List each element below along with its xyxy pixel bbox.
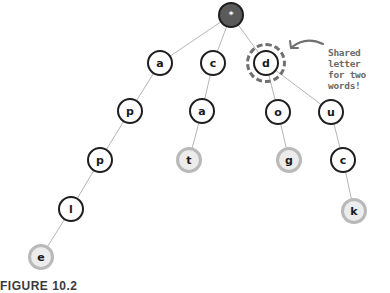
trie-node-c: c: [200, 50, 226, 76]
annotation-line-2: for two words!: [328, 69, 390, 91]
trie-node-t-terminal: t: [176, 147, 202, 173]
shared-letter-annotation: Shared letter for two words!: [328, 47, 390, 91]
tree-edges: [41, 15, 354, 257]
trie-node-a: a: [189, 98, 215, 124]
trie-node-k-terminal: k: [341, 198, 367, 224]
trie-node-e-terminal: e: [28, 244, 54, 270]
trie-node-u: u: [318, 99, 344, 125]
trie-node-g-terminal: g: [276, 147, 302, 173]
annotation-line-1: Shared letter: [328, 47, 390, 69]
trie-node-a: a: [147, 50, 173, 76]
trie-node-l: l: [58, 196, 84, 222]
figure-caption: FIGURE 10.2: [0, 279, 78, 293]
trie-node-o: o: [265, 99, 291, 125]
trie-root-node: *: [218, 2, 244, 28]
trie-node-p: p: [87, 147, 113, 173]
trie-node-d: d: [253, 50, 279, 76]
trie-node-c: c: [330, 147, 356, 173]
annotation-arrow-icon: [292, 41, 323, 47]
trie-node-p: p: [117, 98, 143, 124]
